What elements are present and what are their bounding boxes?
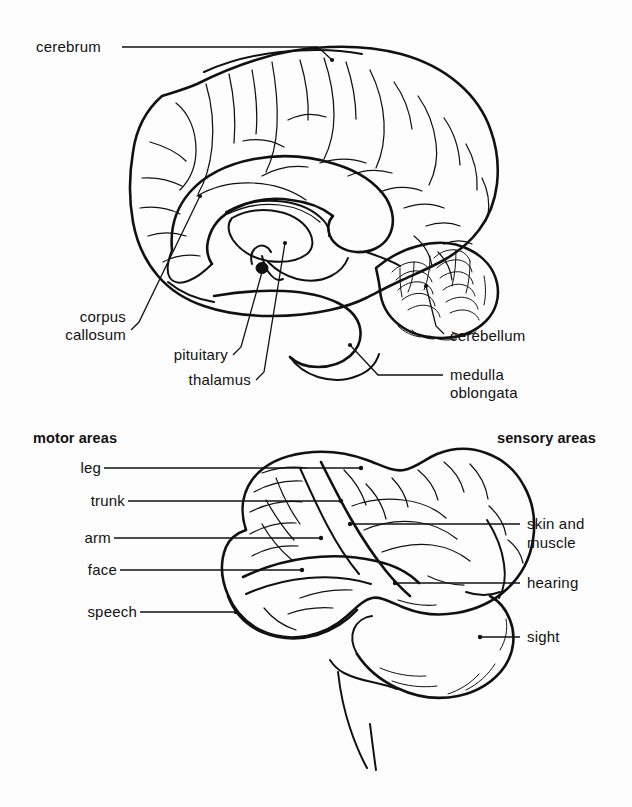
label-medulla: medulla bbox=[450, 366, 504, 384]
leader-cerebellum bbox=[426, 286, 444, 334]
lateral-sulcus-lower bbox=[246, 577, 371, 594]
leader-dot-face bbox=[300, 568, 304, 572]
leader-dot-hearing bbox=[393, 581, 397, 585]
leader-corpus-callosum bbox=[131, 196, 200, 330]
leader-dot-skin-and-muscle bbox=[348, 522, 352, 526]
leader-dot-medulla bbox=[348, 343, 352, 347]
label-sight: sight bbox=[527, 628, 560, 646]
header-motor-areas: motor areas bbox=[33, 429, 117, 447]
leader-dot-thalamus bbox=[283, 241, 287, 245]
leader-dot-trunk bbox=[339, 499, 343, 503]
label-arm: arm bbox=[0, 529, 111, 547]
lateral-brainstem-right bbox=[370, 724, 376, 770]
leader-medulla bbox=[350, 345, 443, 375]
leader-dot-pituitary bbox=[260, 270, 264, 274]
label-callosum: callosum bbox=[0, 326, 126, 344]
cerebellum-outline bbox=[376, 243, 498, 338]
label-oblongata: oblongata bbox=[450, 384, 518, 402]
leader-dot-leg bbox=[359, 466, 363, 470]
label-pituitary: pituitary bbox=[0, 346, 228, 364]
preoccipital-notch bbox=[466, 592, 500, 595]
lower-brain-lateral bbox=[222, 449, 534, 770]
leader-dot-sight bbox=[478, 635, 482, 639]
occipital-sulcus bbox=[487, 520, 505, 598]
leader-dot-cerebellum bbox=[424, 284, 428, 288]
lateral-brainstem-left bbox=[338, 672, 367, 768]
brainstem-pons-medulla bbox=[214, 291, 361, 367]
label-cerebrum: cerebrum bbox=[36, 38, 101, 56]
label-speech: speech bbox=[0, 603, 137, 621]
temporal-lobe-outline bbox=[228, 596, 357, 638]
leader-dot-corpus-callosum bbox=[198, 194, 202, 198]
brain-figure-svg bbox=[0, 0, 632, 807]
leader-dot-cerebrum bbox=[330, 58, 334, 62]
label-skin-and: skin and bbox=[527, 515, 584, 533]
brainstem-lower-edge bbox=[290, 354, 379, 380]
upper-brain-midsagittal bbox=[130, 47, 498, 380]
label-leg: leg bbox=[0, 459, 101, 477]
label-face: face bbox=[0, 561, 117, 579]
header-sensory-areas: sensory areas bbox=[497, 429, 596, 447]
figure-page: cerebrum corpus callosum pituitary thala… bbox=[0, 0, 632, 807]
cerebellum-arbor-vitae bbox=[392, 250, 486, 320]
label-hearing: hearing bbox=[527, 574, 578, 592]
lower-leaders-sensory bbox=[348, 522, 520, 639]
lateral-cerebellum-outline bbox=[357, 596, 513, 698]
label-corpus: corpus bbox=[0, 308, 126, 326]
leader-dot-arm bbox=[319, 536, 323, 540]
leader-cerebrum-tail bbox=[318, 47, 332, 60]
label-muscle: muscle bbox=[527, 534, 576, 552]
label-thalamus: thalamus bbox=[0, 371, 251, 389]
label-trunk: trunk bbox=[0, 492, 125, 510]
lateral-cerebrum-outline bbox=[222, 449, 534, 637]
leader-dot-speech bbox=[234, 610, 238, 614]
lateral-cerebellum-top bbox=[352, 616, 372, 654]
label-cerebellum: cerebellum bbox=[450, 327, 525, 345]
thalamus-mass bbox=[229, 210, 313, 262]
cerebrum-sulci-group bbox=[140, 58, 489, 280]
